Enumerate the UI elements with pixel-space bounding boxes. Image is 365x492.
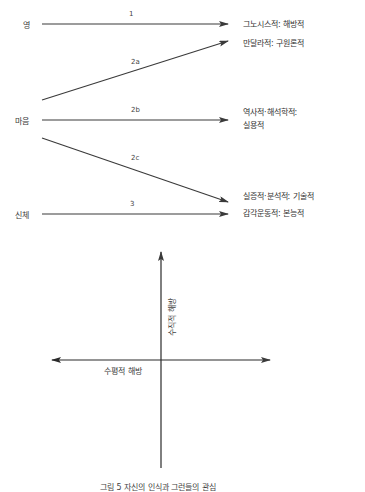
target-empirical-text: 실증적·분석적: 기술적 [243, 192, 314, 201]
path-label-1: 1 [129, 10, 133, 18]
path-2c-arrow [42, 138, 228, 202]
target-gnostic-text: 그노시스적: 해방적 [243, 20, 304, 29]
vertical-axis-label: 수직적 해방 [166, 298, 177, 336]
figure-caption: 그림 5 자신의 인식과 그런들의 관심 [100, 481, 216, 492]
target-historical-line1: 역사적·해석학적: [243, 106, 297, 119]
target-historical: 역사적·해석학적: 실용적 [243, 106, 297, 132]
path-label-2b: 2b [131, 106, 140, 114]
target-sensorimotor-text: 감각운동적: 본능적 [243, 209, 304, 218]
horizontal-axis-label: 수평적 해방 [104, 365, 142, 376]
path-label-3: 3 [130, 200, 134, 208]
source-spirit: 영 [23, 19, 30, 30]
source-mind: 마음 [15, 115, 29, 126]
source-body: 신체 [15, 209, 29, 220]
target-historical-line2: 실용적 [243, 119, 297, 132]
path-label-2c: 2c [131, 154, 139, 162]
target-empirical: 실증적·분석적: 기술적 [243, 190, 314, 203]
target-mandalic-text: 만달라적: 구원론적 [243, 39, 304, 48]
path-label-2a: 2a [131, 58, 140, 66]
target-sensorimotor: 감각운동적: 본능적 [243, 207, 304, 220]
target-mandalic: 만달라적: 구원론적 [243, 37, 304, 50]
target-gnostic: 그노시스적: 해방적 [243, 18, 304, 31]
path-2a-arrow [42, 41, 228, 100]
